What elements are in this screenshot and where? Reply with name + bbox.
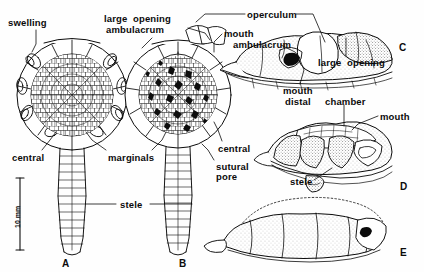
figure-a-stele (58, 148, 86, 255)
figure-artwork (0, 0, 424, 272)
annotation-large-opening-top: large opening (104, 14, 171, 25)
panel-letter-e: E (400, 247, 407, 258)
figure-a-theca (16, 39, 128, 151)
annotation-pore: pore (216, 172, 237, 183)
leader-large-opening-top (142, 38, 152, 48)
leader-operculum-left (196, 14, 245, 22)
annotation-stele-d: stele (290, 177, 312, 188)
panel-letter-a: A (62, 258, 69, 269)
figure-b-stele (164, 147, 192, 255)
annotation-mouth-top: mouth (224, 29, 254, 40)
annotation-stele-main: stele (120, 200, 142, 211)
leader-swelling (32, 30, 36, 52)
figure-b-theca (125, 25, 231, 148)
scale-bar-label: 10 mm (14, 206, 21, 228)
panel-letter-b: B (179, 258, 186, 269)
panel-letter-c: C (399, 42, 406, 53)
leader-sutural-pore (202, 144, 214, 160)
annotation-ambulacrum-mouth: ambulacrum (233, 40, 291, 51)
annotation-distal: distal (285, 97, 311, 108)
panel-letter-d: D (400, 181, 407, 192)
annotation-central-left: central (12, 153, 44, 164)
annotation-central-right: central (218, 144, 250, 155)
figure-d-specimen (254, 122, 392, 192)
annotation-mouth-distal: mouth (283, 86, 313, 97)
figure-e-specimen (204, 197, 386, 262)
annotation-ambulacrum-top: ambulacrum (106, 25, 164, 36)
annotation-swelling: swelling (8, 18, 47, 29)
annotation-mouth-right: mouth (380, 112, 410, 123)
annotation-operculum: operculum (247, 10, 297, 21)
annotation-large-opening-right: large opening (318, 58, 385, 69)
scientific-figure-plate: swellinglarge openingambulacrumoperculum… (0, 0, 424, 272)
annotation-marginals: marginals (108, 153, 154, 164)
annotation-chamber: chamber (325, 97, 366, 108)
